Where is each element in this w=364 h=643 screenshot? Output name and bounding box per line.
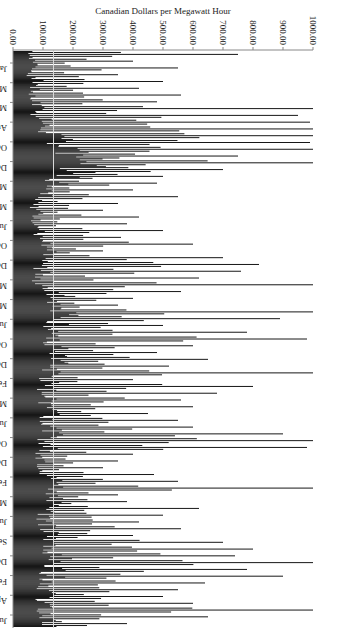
bar	[13, 262, 153, 263]
bar	[13, 67, 178, 68]
bar	[13, 437, 51, 438]
bar	[13, 206, 39, 207]
x-tick-label: Oct 01/03	[0, 439, 7, 449]
bar	[13, 623, 127, 624]
bar	[13, 369, 57, 370]
bar	[13, 335, 55, 336]
bar	[13, 502, 62, 503]
bar	[13, 66, 71, 67]
bar	[13, 279, 40, 280]
bar	[13, 237, 121, 238]
bar	[13, 438, 197, 439]
bar	[13, 210, 103, 211]
x-tick-label: Mar 14/00	[0, 84, 7, 94]
bar	[13, 574, 120, 575]
bar	[13, 107, 44, 108]
bar	[13, 569, 247, 570]
bar	[13, 577, 65, 578]
bar	[13, 319, 54, 320]
bar	[13, 392, 42, 393]
bar	[13, 489, 48, 490]
y-tick-label: 800.00	[248, 20, 258, 45]
bar	[13, 90, 73, 91]
bar	[13, 377, 78, 378]
bar	[13, 482, 57, 483]
bar	[13, 266, 161, 267]
x-tick-label: Jan 02/00	[0, 64, 7, 74]
bar	[13, 320, 144, 321]
bar	[13, 108, 313, 109]
bar	[13, 172, 95, 173]
bar	[13, 403, 51, 404]
bar	[13, 230, 163, 231]
bar	[13, 163, 80, 164]
bar	[13, 328, 51, 329]
bar	[13, 121, 42, 122]
bar	[13, 134, 61, 135]
bar	[13, 582, 205, 583]
bar	[13, 526, 115, 527]
bar	[13, 54, 238, 55]
bar	[13, 83, 83, 84]
bar	[13, 141, 66, 142]
bar	[13, 594, 84, 595]
bar	[13, 408, 95, 409]
bar	[13, 364, 105, 365]
bar	[13, 167, 128, 168]
bar	[13, 422, 108, 423]
bar	[13, 104, 32, 105]
bar	[13, 531, 44, 532]
y-tick-label: 500.00	[158, 20, 168, 45]
y-tick-label: 100.00	[38, 20, 48, 45]
bar	[13, 480, 62, 481]
bar	[13, 456, 67, 457]
bar	[13, 405, 52, 406]
bar	[13, 233, 37, 234]
bar	[13, 327, 101, 328]
bar	[13, 504, 54, 505]
bar	[13, 123, 43, 124]
bar	[13, 410, 57, 411]
bar	[13, 368, 102, 369]
bar	[13, 340, 183, 341]
bar	[13, 612, 39, 613]
bar	[13, 519, 36, 520]
bar	[13, 332, 247, 333]
bar	[13, 484, 58, 485]
bar	[13, 556, 50, 557]
bar	[13, 315, 78, 316]
bar	[13, 618, 99, 619]
bar	[13, 263, 43, 264]
bar	[13, 337, 197, 338]
bar	[13, 558, 72, 559]
bar	[13, 135, 313, 136]
bar	[13, 51, 32, 52]
bar	[13, 610, 313, 611]
bar	[13, 280, 32, 281]
bar	[13, 402, 38, 403]
bar	[13, 245, 41, 246]
bar	[13, 333, 52, 334]
bar	[13, 316, 122, 317]
x-tick-label: Jul 26/02	[0, 320, 7, 330]
x-tick-label: Jul 10/05	[0, 616, 7, 626]
bar	[13, 353, 50, 354]
bar	[13, 399, 57, 400]
bar	[13, 374, 162, 375]
bar	[13, 216, 32, 217]
bar	[13, 593, 56, 594]
x-tick-label: Aug 05/00	[0, 123, 7, 133]
x-tick-label: Jul 21/03	[0, 419, 7, 429]
bar	[13, 612, 171, 613]
bar	[13, 212, 58, 213]
bar	[13, 380, 40, 381]
bar	[13, 259, 127, 260]
bar	[13, 249, 47, 250]
bar	[13, 181, 79, 182]
bar	[13, 301, 57, 302]
bar	[13, 117, 161, 118]
bar	[13, 532, 59, 533]
bar	[13, 220, 31, 221]
bar	[13, 357, 130, 358]
bar	[13, 65, 38, 66]
